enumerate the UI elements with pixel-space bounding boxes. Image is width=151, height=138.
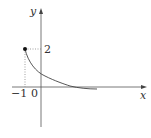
start-point xyxy=(23,47,27,51)
function-curve xyxy=(25,49,97,89)
x-tick-label: −1 xyxy=(11,87,27,100)
y-axis-arrow-icon xyxy=(39,8,43,14)
y-tick-label: 2 xyxy=(44,43,51,56)
y-axis-label: y xyxy=(29,5,37,18)
origin-label: 0 xyxy=(31,87,38,100)
graph: y x 2 −1 0 xyxy=(0,0,151,138)
x-axis-label: x xyxy=(140,89,147,102)
